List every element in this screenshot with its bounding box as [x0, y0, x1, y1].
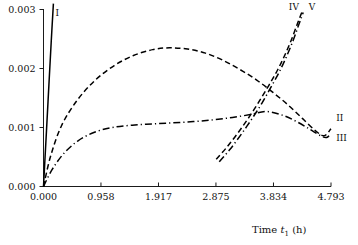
y-tick-label: 0.002: [8, 63, 35, 74]
curve-label-v: V: [308, 2, 316, 12]
x-tick-label: 0.958: [87, 191, 114, 202]
x-tick-label: 2.875: [202, 191, 229, 202]
curve-label-ii: II: [336, 113, 344, 123]
line-chart: 0.0000.0010.0020.003 0.0000.9581.9172.87…: [0, 0, 358, 245]
x-tick-label: 0.000: [30, 191, 57, 202]
x-tick-label: 1.917: [145, 191, 172, 202]
curve-label-i: I: [55, 8, 59, 18]
curve-label-iii: III: [336, 133, 347, 143]
x-tick-label: 4.793: [317, 191, 344, 202]
curve-label-iv: IV: [289, 2, 300, 12]
x-tick-label: 3.834: [260, 191, 287, 202]
y-tick-label: 0.001: [8, 122, 35, 133]
y-tick-label: 0.003: [8, 4, 35, 15]
chart-figure: 0.0000.0010.0020.003 0.0000.9581.9172.87…: [0, 0, 358, 245]
